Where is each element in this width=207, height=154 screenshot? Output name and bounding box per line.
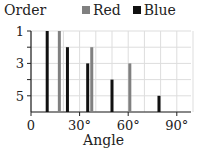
svg-text:30°: 30°: [68, 118, 91, 130]
svg-text:90°: 90°: [165, 118, 188, 130]
svg-text:60°: 60°: [117, 118, 140, 130]
svg-text:3: 3: [16, 56, 24, 71]
plot-area: 135030°60°90°: [0, 0, 207, 130]
x-axis-title: Angle: [0, 132, 207, 148]
svg-text:5: 5: [16, 89, 24, 104]
svg-text:0: 0: [27, 118, 35, 130]
svg-text:1: 1: [16, 24, 24, 39]
